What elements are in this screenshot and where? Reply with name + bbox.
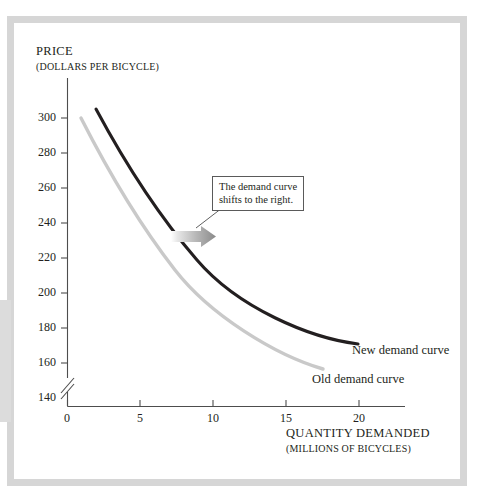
shift-callout-line-2: shifts to the right.	[219, 193, 297, 206]
y-tick-label-260: 260	[28, 181, 56, 194]
y-axis	[61, 78, 68, 406]
x-tick-label-10: 10	[199, 412, 227, 425]
y-tick-label-160: 160	[28, 356, 56, 369]
new-demand-curve-label: New demand curve	[352, 344, 449, 358]
right-arrow-icon	[171, 226, 216, 247]
figure-root: PRICE (DOLLARS PER BICYCLE) 300 280 260 …	[0, 0, 485, 502]
x-axis-title: QUANTITY DEMANDED	[286, 427, 430, 441]
shift-callout-line-1: The demand curve	[219, 180, 297, 193]
x-axis-subtitle: (MILLIONS OF BICYCLES)	[286, 443, 411, 454]
y-tick-label-220: 220	[28, 251, 56, 264]
y-tick-label-200: 200	[28, 286, 56, 299]
new-demand-curve	[96, 109, 358, 344]
x-tick-label-20: 20	[345, 412, 373, 425]
x-tick-label-5: 5	[126, 412, 154, 425]
shift-callout-box: The demand curve shifts to the right.	[212, 176, 304, 211]
y-axis-subtitle: (DOLLARS PER BICYCLE)	[36, 61, 159, 72]
y-tick-label-240: 240	[28, 216, 56, 229]
x-axis	[68, 400, 406, 407]
x-tick-label-15: 15	[272, 412, 300, 425]
y-tick-label-300: 300	[28, 111, 56, 124]
y-tick-label-140: 140	[28, 391, 56, 404]
x-tick-label-0: 0	[53, 412, 81, 425]
y-axis-title: PRICE	[36, 45, 73, 59]
y-tick-label-280: 280	[28, 146, 56, 159]
y-tick-label-180: 180	[28, 321, 56, 334]
old-demand-curve-label: Old demand curve	[312, 373, 404, 387]
